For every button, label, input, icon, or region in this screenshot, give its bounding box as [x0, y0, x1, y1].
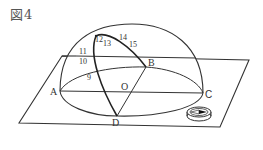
hour-10: 10 — [79, 57, 87, 66]
compass-icon — [187, 107, 211, 121]
label-O: O — [121, 81, 128, 92]
label-B: B — [148, 57, 155, 68]
hour-13: 13 — [103, 39, 111, 48]
horizon-front-arc — [60, 91, 203, 116]
hour-14: 14 — [119, 33, 127, 42]
hour-11: 11 — [79, 47, 87, 56]
hour-9: 9 — [87, 73, 91, 82]
hour-12: 12 — [95, 35, 103, 44]
celestial-hemisphere-diagram: A B C D O 9 10 11 12 13 14 15 — [0, 0, 263, 150]
hour-15: 15 — [129, 40, 137, 49]
label-C: C — [205, 89, 212, 100]
label-D: D — [112, 117, 119, 128]
label-A: A — [50, 86, 58, 97]
